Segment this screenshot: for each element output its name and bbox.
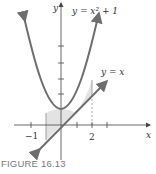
figure-caption: FIGURE 16.13 xyxy=(1,158,66,169)
y-axis-label: y xyxy=(52,3,59,13)
x-axis-label: x xyxy=(146,130,151,140)
tick-label-neg1: −1 xyxy=(25,131,38,141)
figure-graph: y x y = x² + 1 y = x −1 2 xyxy=(0,0,156,174)
parabola-label: y = x² + 1 xyxy=(71,6,118,16)
shaded-area xyxy=(46,80,92,140)
tick-label-2: 2 xyxy=(89,132,95,142)
line-label: y = x xyxy=(100,67,124,77)
